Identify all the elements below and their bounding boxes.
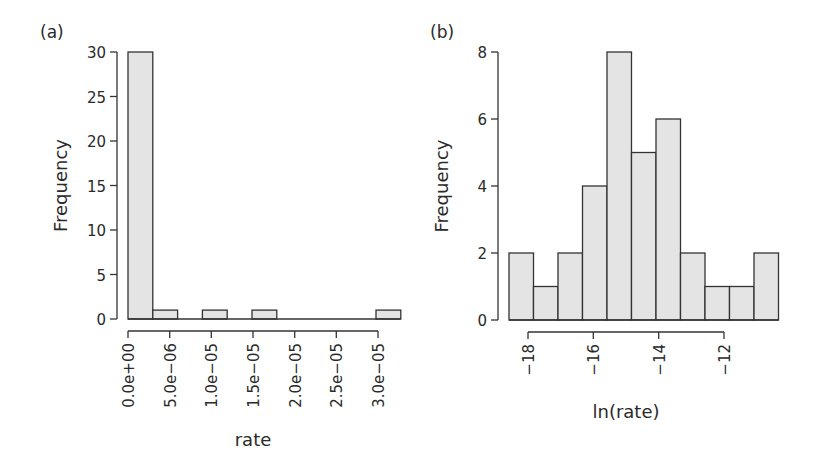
- x-tick-label: 1.0e−05: [203, 343, 221, 408]
- y-tick-label: 8: [477, 44, 487, 62]
- panel-label: (b): [430, 22, 454, 42]
- y-tick-label: 30: [87, 44, 106, 62]
- histogram-bar: [128, 52, 153, 319]
- histogram-bar: [252, 310, 277, 319]
- histogram-bar: [509, 253, 534, 320]
- histogram-bar: [376, 310, 401, 319]
- panel-label: (a): [40, 22, 64, 42]
- y-tick-label: 4: [477, 178, 487, 196]
- figure: (a)051015202530Frequency0.0e+005.0e−061.…: [0, 0, 813, 466]
- x-tick-label: 5.0e−06: [162, 343, 180, 408]
- histogram-rate: (a)051015202530Frequency0.0e+005.0e−061.…: [40, 22, 401, 450]
- y-axis-title: Frequency: [431, 139, 452, 232]
- x-tick-label: −18: [520, 344, 538, 376]
- histogram-bar: [632, 153, 657, 321]
- histogram-bar: [153, 310, 178, 319]
- y-tick-label: 0: [477, 312, 487, 330]
- x-tick-label: −12: [716, 344, 734, 376]
- histogram-bar: [583, 186, 608, 320]
- x-tick-label: 3.0e−05: [370, 343, 388, 408]
- histogram-bar: [730, 287, 755, 321]
- y-tick-label: 0: [96, 311, 106, 329]
- x-tick-label: 0.0e+00: [120, 343, 138, 408]
- histogram-bar: [681, 253, 706, 320]
- x-tick-label: −16: [585, 344, 603, 376]
- x-tick-label: 1.5e−05: [245, 343, 263, 408]
- histogram-bar: [705, 287, 730, 321]
- x-axis-title: rate: [235, 429, 272, 450]
- y-tick-label: 20: [87, 133, 106, 151]
- y-tick-label: 2: [477, 245, 487, 263]
- y-tick-label: 6: [477, 111, 487, 129]
- x-tick-label: −14: [651, 344, 669, 376]
- histogram-bar: [534, 287, 559, 321]
- y-axis-title: Frequency: [50, 139, 71, 232]
- y-tick-label: 10: [87, 222, 106, 240]
- y-tick-label: 5: [96, 267, 106, 285]
- histogram-bar: [607, 52, 632, 320]
- histogram-bar: [656, 119, 681, 320]
- x-axis-title: ln(rate): [592, 401, 659, 422]
- histogram-bar: [558, 253, 583, 320]
- histogram-ln-rate: (b)02468Frequency−18−16−14−12ln(rate): [430, 22, 779, 422]
- y-tick-label: 25: [87, 89, 106, 107]
- x-tick-label: 2.0e−05: [287, 343, 305, 408]
- histogram-bar: [754, 253, 779, 320]
- histogram-bar: [202, 310, 227, 319]
- y-tick-label: 15: [87, 178, 106, 196]
- x-tick-label: 2.5e−05: [328, 343, 346, 408]
